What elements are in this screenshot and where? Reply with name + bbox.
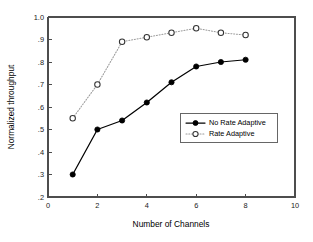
data-point bbox=[120, 118, 125, 123]
data-point bbox=[194, 26, 199, 31]
data-point bbox=[169, 80, 174, 85]
data-point bbox=[243, 57, 248, 62]
axis-frame bbox=[48, 17, 295, 197]
x-tick-label: 10 bbox=[291, 201, 299, 210]
y-tick-label: .5 bbox=[38, 125, 44, 134]
y-axis-ticks: 1.0.9.8.7.6.5.4.3.2 bbox=[34, 13, 52, 202]
legend-marker-rate-adaptive bbox=[193, 131, 198, 136]
legend-label-no-rate-adaptive: No Rate Adaptive bbox=[209, 118, 266, 127]
x-tick-label: 0 bbox=[46, 201, 50, 210]
y-tick-label: .4 bbox=[38, 148, 44, 157]
y-tick-label: .2 bbox=[38, 193, 44, 202]
data-point bbox=[243, 32, 248, 37]
chart-legend: No Rate Adaptive Rate Adaptive bbox=[181, 114, 278, 143]
data-point bbox=[70, 172, 75, 177]
y-tick-label: .6 bbox=[38, 103, 44, 112]
data-point bbox=[144, 35, 149, 40]
x-tick-label: 4 bbox=[145, 201, 149, 210]
x-axis-title: Number of Channels bbox=[133, 219, 210, 229]
chart-series bbox=[70, 26, 248, 178]
data-point bbox=[218, 30, 223, 35]
y-axis-title: Normalized throughput bbox=[6, 64, 16, 149]
data-point bbox=[194, 64, 199, 69]
x-tick-label: 2 bbox=[95, 201, 99, 210]
line-chart: 1.0.9.8.7.6.5.4.3.2 0246810 No Rate Adap… bbox=[0, 0, 313, 242]
y-tick-label: .9 bbox=[38, 35, 44, 44]
legend-label-rate-adaptive: Rate Adaptive bbox=[209, 129, 254, 138]
data-point bbox=[95, 127, 100, 132]
y-tick-label: 1.0 bbox=[34, 13, 44, 22]
y-tick-label: .3 bbox=[38, 170, 44, 179]
chart-axes bbox=[48, 17, 295, 197]
data-point bbox=[70, 116, 75, 121]
series-line bbox=[73, 28, 246, 118]
data-point bbox=[169, 30, 174, 35]
legend-marker-no-rate-adaptive bbox=[193, 121, 198, 126]
y-tick-label: .8 bbox=[38, 58, 44, 67]
data-point bbox=[119, 39, 124, 44]
x-tick-label: 8 bbox=[244, 201, 248, 210]
chart-figure: 1.0.9.8.7.6.5.4.3.2 0246810 No Rate Adap… bbox=[0, 0, 313, 242]
data-point bbox=[218, 59, 223, 64]
y-tick-label: .7 bbox=[38, 80, 44, 89]
data-point bbox=[144, 100, 149, 105]
data-point bbox=[95, 82, 100, 87]
x-tick-label: 6 bbox=[194, 201, 198, 210]
x-axis-ticks: 0246810 bbox=[46, 194, 299, 211]
